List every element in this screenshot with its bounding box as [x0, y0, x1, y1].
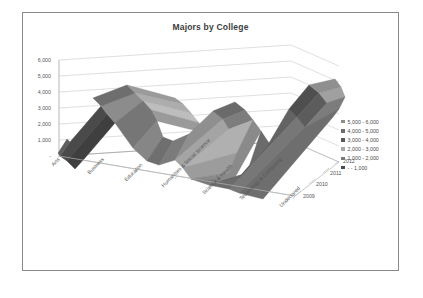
y-tick-3000: 3,000: [25, 105, 51, 111]
year-label-2010: 2010: [316, 181, 328, 187]
y-tick-4000: 4,000: [25, 89, 51, 95]
legend-label: 2,000 - 3,000: [348, 146, 379, 152]
legend-label: 4,000 - 5,000: [348, 128, 379, 134]
legend-swatch-icon: [341, 129, 345, 133]
legend-item[interactable]: 4,000 - 5,000: [341, 126, 401, 135]
chart-legend[interactable]: 5,000 - 6,000 4,000 - 5,000 3,000 - 4,00…: [341, 117, 401, 172]
y-tick-2000: 2,000: [25, 121, 51, 127]
year-label-2009: 2009: [303, 193, 315, 199]
legend-label: 3,000 - 4,000: [348, 137, 379, 143]
y-tick-1000: 1,000: [25, 137, 51, 143]
legend-swatch-icon: [341, 120, 345, 124]
legend-item[interactable]: 1,000 - 2,000: [341, 154, 401, 163]
y-tick-zero: -: [25, 153, 51, 159]
legend-label: 1,000 - 2,000: [348, 155, 379, 161]
y-tick-5000: 5,000: [25, 73, 51, 79]
y-tick-6000: 6,000: [25, 57, 51, 63]
legend-label: - - 1,000: [348, 165, 368, 171]
legend-item[interactable]: 2,000 - 3,000: [341, 145, 401, 154]
legend-label: 5,000 - 6,000: [348, 119, 379, 125]
chart-container[interactable]: Majors by College: [22, 12, 399, 271]
legend-item[interactable]: 5,000 - 6,000: [341, 117, 401, 126]
legend-swatch-icon: [341, 166, 345, 170]
surface-mesh: [58, 79, 345, 199]
legend-item[interactable]: - - 1,000: [341, 163, 401, 172]
legend-swatch-icon: [341, 147, 345, 151]
legend-item[interactable]: 3,000 - 4,000: [341, 135, 401, 144]
year-label-2011: 2011: [330, 170, 341, 176]
legend-swatch-icon: [341, 157, 345, 161]
legend-swatch-icon: [341, 138, 345, 142]
